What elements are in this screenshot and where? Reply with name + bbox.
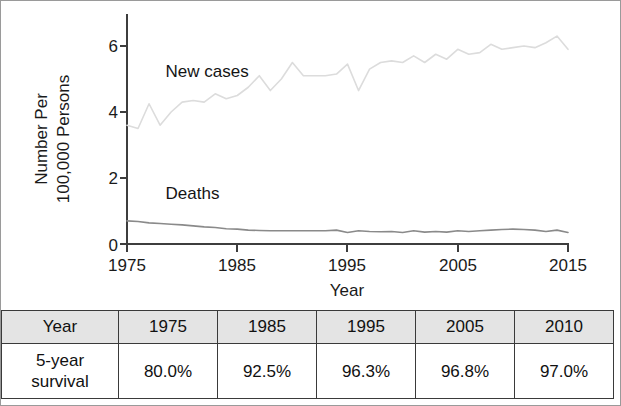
y-axis-title-line2: 100,000 Persons [54, 75, 73, 204]
table-header-row: Year 1975 1985 1995 2005 2010 [2, 311, 614, 344]
table-cell-survival-1985: 92.5% [218, 344, 317, 399]
table-row-label-survival: 5-year survival [2, 344, 119, 399]
series-label-new-cases: New cases [166, 62, 249, 81]
table-cell-survival-1995: 96.3% [317, 344, 416, 399]
table-cell-survival-2010: 97.0% [515, 344, 614, 399]
table-row-label-line1: 5-year [2, 350, 118, 371]
y-axis-title-line1: Number Per [32, 93, 51, 185]
table-cell-survival-1975: 80.0% [119, 344, 218, 399]
x-tick-label-1985: 1985 [218, 256, 256, 275]
y-axis-title: Number Per 100,000 Persons [32, 75, 73, 204]
chart-panel: Number Per 100,000 Persons 6 4 2 0 197 [1, 1, 620, 304]
series-line-deaths [127, 221, 568, 233]
x-axis-title: Year [330, 281, 365, 300]
x-tick-label-2005: 2005 [439, 256, 477, 275]
y-tick-label-0: 0 [109, 236, 118, 255]
figure-root: Number Per 100,000 Persons 6 4 2 0 197 [0, 0, 621, 406]
incidence-mortality-line-chart: Number Per 100,000 Persons 6 4 2 0 197 [1, 1, 620, 304]
table-header-cell-2010: 2010 [515, 311, 614, 344]
x-tick-label-1995: 1995 [328, 256, 366, 275]
table-header-cell-2005: 2005 [416, 311, 515, 344]
y-tick-label-6: 6 [109, 37, 118, 56]
y-tick-label-2: 2 [109, 169, 118, 188]
series-line-new-cases [127, 36, 568, 128]
series-label-deaths: Deaths [166, 184, 220, 203]
five-year-survival-table: Year 1975 1985 1995 2005 2010 5-year sur… [1, 310, 614, 399]
table-row-label-line2: survival [2, 371, 118, 392]
table-cell-survival-2005: 96.8% [416, 344, 515, 399]
x-tick-label-1975: 1975 [108, 256, 146, 275]
table-header-cell-1985: 1985 [218, 311, 317, 344]
table-header-cell-year: Year [2, 311, 119, 344]
y-tick-label-4: 4 [109, 103, 118, 122]
table-header-cell-1995: 1995 [317, 311, 416, 344]
table-row: 5-year survival 80.0% 92.5% 96.3% 96.8% … [2, 344, 614, 399]
table-header-cell-1975: 1975 [119, 311, 218, 344]
x-tick-label-2015: 2015 [549, 256, 587, 275]
